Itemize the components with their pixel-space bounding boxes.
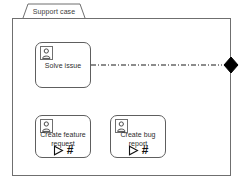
play-triangle-icon[interactable] [128,145,139,156]
package-name-tab[interactable]: Support case [16,3,92,19]
node-label: Solve issue [39,62,87,71]
hash-grid-icon[interactable]: # [142,144,149,156]
diagram-canvas: Support case Solve issue Create feature … [0,0,245,189]
node-glyph-row: # [111,144,165,156]
package-title: Support case [16,3,92,19]
node-glyph-row: # [36,144,90,156]
node-solve-issue[interactable]: Solve issue [35,42,91,88]
node-create-feature-request[interactable]: Create feature request # [35,115,91,158]
actor-icon [40,46,53,60]
node-create-bug-report[interactable]: Create bug report # [110,115,166,158]
play-triangle-icon[interactable] [53,145,64,156]
hash-grid-icon[interactable]: # [67,144,74,156]
